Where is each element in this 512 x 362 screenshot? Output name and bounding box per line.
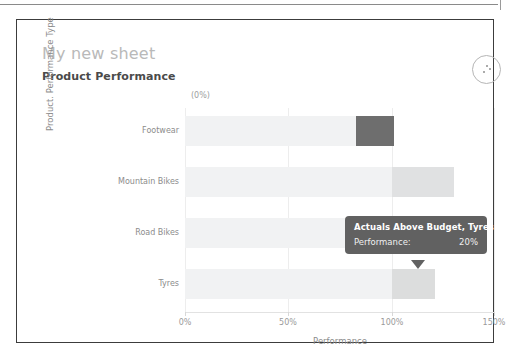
y-axis-title: Product. Performance Type — [45, 17, 55, 131]
x-axis-line — [185, 312, 495, 313]
bar-segment-above-budget[interactable] — [392, 167, 454, 197]
x-tick-150 — [494, 312, 495, 316]
plot-area: (0%) Footwear Mountain Bikes — [185, 108, 495, 312]
category-label-tyres: Tyres — [158, 279, 179, 288]
x-tick-label-0: 0% — [179, 318, 192, 327]
bar-segment-within-budget[interactable] — [185, 167, 392, 197]
x-tick-100 — [392, 312, 393, 316]
window-top-edge — [0, 4, 498, 5]
x-axis-title: Performance — [185, 336, 495, 346]
tooltip-title: Actuals Above Budget, Tyres — [354, 222, 478, 232]
sheet-container: My new sheet Product Performance Product… — [16, 19, 494, 343]
category-label-footwear: Footwear — [142, 126, 179, 135]
x-tick-0 — [185, 312, 186, 316]
x-tick-label-150: 150% — [483, 318, 506, 327]
bar-segment-within-budget[interactable] — [185, 269, 392, 299]
category-label-mountain-bikes: Mountain Bikes — [118, 177, 179, 186]
window-right-edge — [500, 0, 501, 10]
chart-tooltip: Actuals Above Budget, Tyres Performance:… — [345, 216, 487, 254]
tooltip-pointer — [411, 260, 425, 269]
category-label-road-bikes: Road Bikes — [135, 228, 179, 237]
zero-baseline-note: (0%) — [191, 91, 210, 100]
bar-chart: Product. Performance Type (0%) Footwear — [33, 39, 511, 362]
bar-segment-within-budget[interactable] — [185, 116, 356, 146]
gridline-150 — [494, 108, 495, 312]
tooltip-measure-label: Performance: — [354, 237, 411, 247]
x-tick-label-50: 50% — [279, 318, 297, 327]
tooltip-measure-value: 20% — [459, 237, 478, 247]
bar-segment-above-budget[interactable] — [392, 269, 435, 299]
x-tick-50 — [288, 312, 289, 316]
x-tick-label-100: 100% — [381, 318, 404, 327]
bar-segment-highlighted[interactable] — [356, 116, 394, 146]
